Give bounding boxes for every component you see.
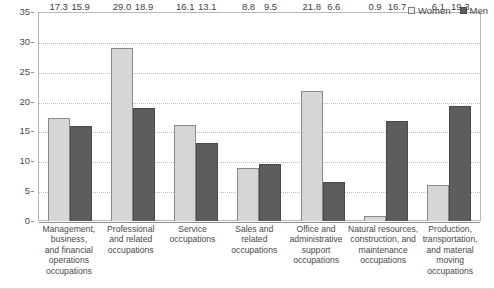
bar-value-label: 8.8 <box>241 2 256 12</box>
y-tick-mark <box>31 102 34 103</box>
x-category-label-line: business, <box>39 234 99 244</box>
bar-men[interactable]: 13.1 <box>196 143 218 221</box>
y-tick-mark <box>31 42 34 43</box>
legend-swatch-icon <box>460 7 467 14</box>
x-category-label: Management,business,and financialoperati… <box>38 224 100 286</box>
bar-column: 29.0 <box>111 12 133 221</box>
bar-group: 8.89.5 <box>228 12 291 221</box>
x-category-label-line: related <box>224 234 284 244</box>
x-category-label-line: operations <box>39 255 99 265</box>
x-category-label-line: occupations <box>101 245 161 255</box>
y-tick-label: 0 <box>25 216 30 226</box>
y-tick-mark <box>31 221 34 222</box>
x-category-label-line: moving <box>420 255 480 265</box>
bar-column: 15.9 <box>70 12 92 221</box>
bar-group: 6.119.3 <box>418 12 481 221</box>
bar-value-label: 0.9 <box>367 2 382 12</box>
bar-column: 16.1 <box>174 12 196 221</box>
bar-men[interactable]: 9.5 <box>259 164 281 221</box>
bar-men[interactable]: 16.7 <box>386 121 408 221</box>
legend-swatch-icon <box>408 7 415 14</box>
y-tick-label: 25 <box>19 67 30 77</box>
bar-column: 9.5 <box>259 12 281 221</box>
x-category-label: Office andadministrativesupportoccupatio… <box>285 224 347 286</box>
legend-item-women[interactable]: Women <box>408 6 451 16</box>
y-tick-label: 10 <box>19 157 30 167</box>
bar-column: 6.1 <box>427 12 449 221</box>
bar-column: 8.8 <box>237 12 259 221</box>
bar-value-label: 18.9 <box>134 2 155 12</box>
x-category-label: Professionaland relatedoccupations <box>100 224 162 286</box>
x-category-label-line: occupations <box>348 255 418 265</box>
bar-group: 29.018.9 <box>101 12 164 221</box>
x-category-label-line: and related <box>101 234 161 244</box>
bar-column: 17.3 <box>48 12 70 221</box>
legend-label: Women <box>418 6 451 16</box>
y-tick-label: 35 <box>19 7 30 17</box>
x-category-label-line: and financial <box>39 245 99 255</box>
bar-value-label: 16.7 <box>387 2 408 12</box>
x-axis-category-labels: Management,business,and financialoperati… <box>38 224 481 286</box>
y-tick-label: 20 <box>19 97 30 107</box>
bar-women[interactable]: 0.9 <box>364 216 386 221</box>
y-tick-label: 15 <box>19 127 30 137</box>
x-category-label-line: Production, <box>420 224 480 234</box>
bar-column: 6.6 <box>323 12 345 221</box>
bar-group: 21.86.6 <box>291 12 354 221</box>
bar-value-label: 6.6 <box>326 2 341 12</box>
x-category-label-line: construction, and <box>348 234 418 244</box>
bar-women[interactable]: 17.3 <box>48 118 70 221</box>
bar-group: 16.113.1 <box>165 12 228 221</box>
y-tick-mark <box>31 161 34 162</box>
bar-value-label: 13.1 <box>197 2 218 12</box>
bar-group: 0.916.7 <box>354 12 417 221</box>
bar-value-label: 9.5 <box>263 2 278 12</box>
bar-men[interactable]: 18.9 <box>133 108 155 221</box>
y-tick-mark <box>31 12 34 13</box>
x-category-label: Production,transportation,and materialmo… <box>419 224 481 286</box>
bar-value-label: 17.3 <box>48 2 69 12</box>
legend-item-men[interactable]: Men <box>460 6 488 16</box>
x-category-label-line: Management, <box>39 224 99 234</box>
bar-men[interactable]: 19.3 <box>449 106 471 221</box>
bar-value-label: 29.0 <box>112 2 133 12</box>
bar-value-label: 15.9 <box>70 2 91 12</box>
x-category-label-line: and material <box>420 245 480 255</box>
bar-men[interactable]: 6.6 <box>323 182 345 221</box>
bar-men[interactable]: 15.9 <box>70 126 92 221</box>
y-tick-mark <box>31 191 34 192</box>
x-category-label-line: occupations <box>420 266 480 276</box>
legend-label: Men <box>470 6 488 16</box>
bar-column: 13.1 <box>196 12 218 221</box>
x-category-label-line: occupations <box>39 266 99 276</box>
bar-value-label: 16.1 <box>175 2 196 12</box>
x-category-label-line: Natural resources, <box>348 224 418 234</box>
bar-column: 0.9 <box>364 12 386 221</box>
chart-legend: WomenMen <box>408 6 488 16</box>
bar-column: 16.7 <box>386 12 408 221</box>
bar-women[interactable]: 6.1 <box>427 185 449 221</box>
x-category-label-line: Professional <box>101 224 161 234</box>
x-category-label-line: support <box>286 245 346 255</box>
bar-women[interactable]: 16.1 <box>174 125 196 221</box>
x-category-label: Sales andrelatedoccupations <box>223 224 285 286</box>
y-tick-label: 5 <box>25 186 30 196</box>
y-tick-label: 30 <box>19 37 30 47</box>
gridline <box>39 222 480 223</box>
x-category-label-line: transportation, <box>420 234 480 244</box>
bar-women[interactable]: 8.8 <box>237 168 259 221</box>
x-category-label-line: Office and <box>286 224 346 234</box>
bar-groups-layer: 17.315.929.018.916.113.18.89.521.86.60.9… <box>38 12 481 221</box>
bar-column: 21.8 <box>301 12 323 221</box>
x-category-label-line: occupations <box>224 245 284 255</box>
x-category-label: Natural resources,construction, andmaint… <box>347 224 419 286</box>
x-category-label-line: Sales and <box>224 224 284 234</box>
bar-column: 18.9 <box>133 12 155 221</box>
bar-group: 17.315.9 <box>38 12 101 221</box>
x-category-label-line: occupations <box>163 234 223 244</box>
y-axis: 05101520253035 <box>0 12 34 221</box>
bar-women[interactable]: 29.0 <box>111 48 133 221</box>
bar-column: 19.3 <box>449 12 471 221</box>
bar-women[interactable]: 21.8 <box>301 91 323 221</box>
x-category-label-line: Service <box>163 224 223 234</box>
